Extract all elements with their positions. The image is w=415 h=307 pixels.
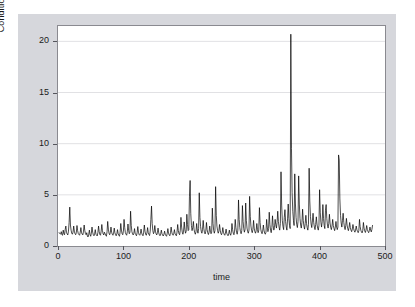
x-axis: 0100200300400500	[0, 0, 415, 307]
x-tick-mark	[254, 246, 255, 250]
x-tick-label: 300	[234, 252, 274, 261]
x-tick-mark	[385, 246, 386, 250]
x-tick-mark	[123, 246, 124, 250]
x-tick-mark	[320, 246, 321, 250]
x-tick-label: 200	[169, 252, 209, 261]
x-tick-label: 0	[38, 252, 78, 261]
x-tick-label: 100	[103, 252, 143, 261]
x-tick-label: 400	[300, 252, 340, 261]
chart-figure: 05101520 0100200300400500 Conditional va…	[0, 0, 415, 307]
x-tick-mark	[189, 246, 190, 250]
x-tick-mark	[58, 246, 59, 250]
x-tick-label: 500	[365, 252, 405, 261]
x-axis-title: time	[57, 272, 386, 282]
y-axis-title: Conditional variance, one-step	[0, 0, 6, 60]
